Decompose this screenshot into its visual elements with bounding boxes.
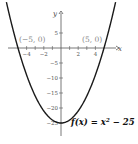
intercept-label: (5, 0) — [82, 35, 102, 44]
x-tick-label: 2 — [76, 51, 80, 57]
y-tick-label: −20 — [46, 105, 58, 111]
y-tick-label: −10 — [46, 75, 58, 81]
y-tick-label: −15 — [46, 90, 58, 96]
x-tick-label: 4 — [94, 51, 98, 57]
x-tick-label: −2 — [40, 51, 48, 57]
x-tick-label: −4 — [23, 51, 32, 57]
y-axis-label: y — [52, 10, 58, 18]
parabola-plot: −4−2245−5−10−15−20−25 (−5, 0)(5, 0) x y … — [0, 0, 138, 144]
intercept-label: (−5, 0) — [19, 35, 46, 44]
y-tick-label: −25 — [46, 120, 58, 126]
y-tick-label: −5 — [50, 60, 59, 66]
y-tick-label: 5 — [55, 30, 59, 36]
x-axis-label: x — [118, 45, 122, 53]
function-label: f(x) = x2 − 25 — [70, 117, 135, 127]
